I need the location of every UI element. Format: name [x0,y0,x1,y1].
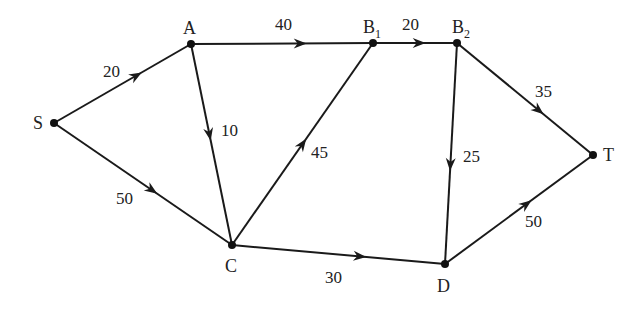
edge-c-b1: 45 [232,43,373,245]
arrowhead-icon [144,182,158,194]
node-dot [187,40,195,48]
arrowhead-icon [128,72,142,83]
edge-s-a: 20 [54,44,191,123]
node-label: B1 [363,17,381,41]
edge-a-c: 10 [191,44,238,245]
node-dot [589,151,597,159]
edge-b2-d: 25 [445,43,480,264]
edge-weight-label: 50 [116,189,133,208]
edge-weight-label: 10 [221,121,238,140]
edges-group: 20504010452025353050 [54,15,593,287]
node-label: C [225,256,237,276]
node-c: C [225,241,237,276]
edge-s-c: 50 [54,123,232,245]
node-label: D [437,276,450,296]
node-dot [453,39,461,47]
edge-b1-b2: 20 [373,15,457,48]
edge-c-d: 30 [232,245,445,287]
edge-weight-label: 35 [535,82,552,101]
edge-weight-label: 50 [525,212,542,231]
node-a: A [183,18,196,48]
edge-weight-label: 45 [311,143,328,162]
edge-line [191,44,232,245]
edge-weight-label: 20 [103,62,120,81]
edge-line [445,43,457,264]
edge-line [191,43,373,44]
edge-line [232,245,445,264]
edge-a-b1: 40 [191,15,373,48]
edge-weight-label: 30 [325,268,342,287]
node-dot [50,119,58,127]
edge-line [445,155,593,264]
edge-d-t: 50 [445,155,593,264]
edge-weight-label: 25 [463,147,480,166]
network-flow-diagram: 20504010452025353050 SAB1B2CDT [0,0,640,313]
node-label: S [33,113,43,133]
edge-line [54,44,191,123]
node-b2: B2 [452,17,470,47]
arrowhead-icon [295,139,307,153]
edge-weight-label: 20 [402,15,419,34]
arrowhead-icon [518,200,531,212]
node-label: T [603,145,614,165]
edge-line [457,43,593,155]
node-label: A [183,18,196,38]
node-s: S [33,113,58,133]
node-dot [228,241,236,249]
edge-weight-label: 40 [275,15,292,34]
node-d: D [437,260,450,296]
node-label: B2 [452,17,470,41]
edge-line [54,123,232,245]
node-dot [441,260,449,268]
node-t: T [589,145,614,165]
edge-b2-t: 35 [457,43,593,155]
